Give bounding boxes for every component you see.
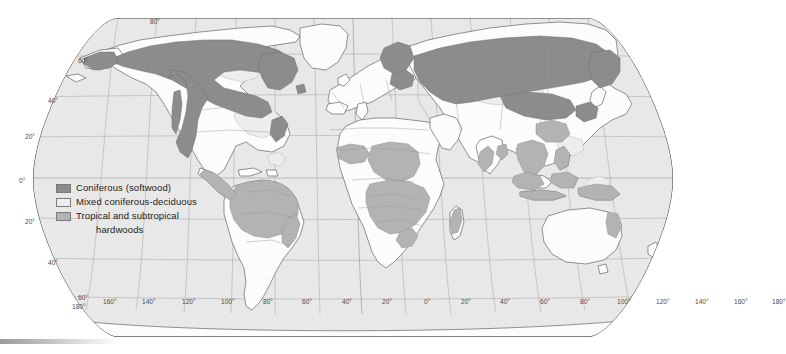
longitude-label-7: 40°: [342, 298, 352, 305]
longitude-label-0: 180°: [72, 303, 86, 310]
latitude-label-5: 20°: [25, 218, 35, 225]
latitude-label-3: 20°: [25, 133, 35, 140]
longitude-label-12: 60°: [540, 298, 550, 305]
latitude-label-2: 40°: [48, 97, 58, 104]
longitude-label-11: 40°: [500, 298, 510, 305]
longitude-label-6: 60°: [302, 298, 312, 305]
longitude-label-3: 120°: [182, 298, 196, 305]
map-legend: Coniferous (softwood) Mixed coniferous-d…: [56, 182, 224, 238]
longitude-label-17: 160°: [734, 298, 748, 305]
longitude-label-16: 140°: [695, 298, 709, 305]
legend-label-mixed: Mixed coniferous-deciduous: [76, 196, 197, 208]
latitude-label-4: 0°: [19, 177, 25, 184]
longitude-label-1: 160°: [103, 298, 117, 305]
latitude-label-0: 80°: [150, 18, 160, 25]
legend-item-tropical: Tropical and subtropical: [56, 210, 224, 223]
mixed-swatch: [56, 198, 71, 207]
longitude-label-10: 20°: [461, 298, 471, 305]
legend-item-coniferous: Coniferous (softwood): [56, 182, 224, 195]
longitude-label-15: 120°: [656, 298, 670, 305]
legend-label-coniferous: Coniferous (softwood): [76, 182, 171, 194]
longitude-label-9: 0°: [424, 298, 430, 305]
longitude-label-18: 180°: [772, 298, 786, 305]
coniferous-swatch: [56, 184, 71, 193]
page-edge-shadow: [0, 339, 118, 344]
longitude-label-5: 80°: [263, 298, 273, 305]
legend-item-mixed: Mixed coniferous-deciduous: [56, 196, 224, 209]
legend-label-tropical-line2: hardwoods: [96, 224, 143, 236]
longitude-label-14: 100°: [617, 298, 631, 305]
tropical-swatch: [56, 212, 71, 221]
legend-label-tropical: Tropical and subtropical: [76, 210, 179, 222]
latitude-label-1: 60°: [78, 57, 88, 64]
latitude-label-6: 40°: [48, 259, 58, 266]
latitude-label-7: 60°: [78, 294, 88, 301]
longitude-label-13: 80°: [580, 298, 590, 305]
legend-item-tropical-line2: hardwoods: [56, 224, 224, 237]
longitude-label-8: 20°: [382, 298, 392, 305]
longitude-label-4: 100°: [221, 298, 235, 305]
longitude-label-2: 140°: [142, 298, 156, 305]
